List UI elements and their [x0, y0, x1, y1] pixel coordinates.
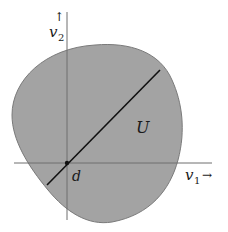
y-axis-subscript: 2: [58, 32, 64, 43]
region-u-label: U: [136, 118, 150, 137]
point-d-label: d: [72, 168, 81, 184]
x-axis-label: v: [185, 166, 194, 184]
x-axis-subscript: 1: [194, 175, 200, 186]
diagram-svg: d U ↑ v 2 v 1 →: [0, 0, 228, 232]
x-axis-arrow-icon: →: [202, 168, 212, 182]
point-d: [65, 161, 69, 165]
diagram-canvas: d U ↑ v 2 v 1 →: [0, 0, 228, 232]
y-axis-label: v: [49, 23, 58, 41]
y-axis-arrow-icon: ↑: [54, 10, 64, 24]
